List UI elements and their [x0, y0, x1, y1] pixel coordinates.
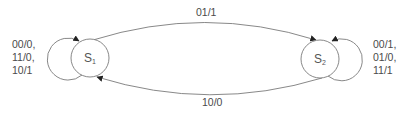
edge-s1-to-s2 [93, 23, 316, 41]
self-loop-label-s1: 00/0, 11/0, 10/1 [12, 38, 35, 77]
state-s1-label: S1 [84, 51, 96, 65]
edge-s2-to-s1 [97, 77, 322, 95]
edge-label-s2-s1: 10/0 [202, 96, 222, 109]
state-s2-label: S2 [314, 52, 326, 66]
self-loop-label-s2: 00/1, 01/0, 11/1 [373, 38, 396, 77]
edge-label-s1-s2: 01/1 [196, 6, 216, 19]
